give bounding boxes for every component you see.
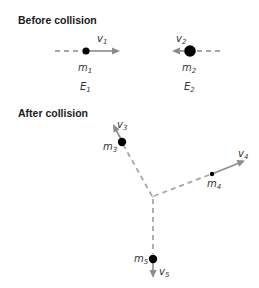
particle-3-after: v3 m3 (103, 119, 152, 196)
velocity-label-1: v1 (97, 33, 107, 46)
arrow-head-icon (150, 270, 157, 278)
particle-5-after: m5 v5 (134, 199, 170, 279)
mass-label-2: m2 (182, 62, 197, 75)
arrow-head-icon (172, 48, 180, 55)
velocity-label-5: v5 (159, 266, 170, 279)
mass-ball-3 (118, 138, 126, 146)
particle-1-before: v1 m1 E1 (55, 33, 120, 94)
trajectory-3-dashed (124, 146, 152, 196)
mass-label-4: m4 (207, 178, 221, 191)
velocity-arrow-3 (116, 130, 121, 139)
velocity-label-3: v3 (117, 119, 127, 132)
trajectory-4-dashed (154, 175, 209, 196)
velocity-label-2: v2 (176, 33, 187, 46)
energy-label-2: E2 (184, 81, 195, 94)
particle-4-after: v4 m4 (154, 148, 248, 196)
mass-label-1: m1 (78, 62, 92, 75)
collision-point (152, 196, 154, 198)
arrow-head-icon (112, 48, 120, 55)
collision-diagram: v1 m1 E1 v2 m2 E2 v3 m3 v4 m4 m5 (0, 0, 259, 288)
mass-ball-4 (210, 172, 214, 176)
velocity-arrow-4 (213, 164, 238, 174)
velocity-label-4: v4 (238, 148, 248, 161)
energy-label-1: E1 (80, 81, 91, 94)
mass-label-3: m3 (103, 141, 117, 154)
mass-label-5: m5 (134, 253, 149, 266)
mass-ball-2 (184, 45, 196, 57)
particle-2-before: v2 m2 E2 (172, 33, 223, 94)
mass-ball-5 (149, 255, 157, 263)
mass-ball-1 (82, 47, 89, 54)
